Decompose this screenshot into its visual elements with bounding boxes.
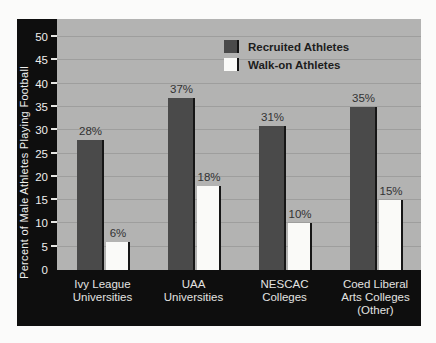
bar-value-label: 31% <box>250 111 296 123</box>
bar-walk-on-athletes <box>106 242 130 270</box>
x-category-label: Coed LiberalArts Colleges(Other) <box>330 278 421 317</box>
x-category-label: NESCACColleges <box>239 278 330 304</box>
bar-walk-on-athletes <box>288 223 312 270</box>
legend-swatch <box>224 40 239 53</box>
y-tick-label: 25 <box>35 148 48 160</box>
bar-value-label: 18% <box>186 171 232 183</box>
bar-value-label: 15% <box>368 185 414 197</box>
gridline <box>57 83 421 84</box>
scanned-bar-chart-page: Percent of Male Athletes Playing Footbal… <box>0 0 436 343</box>
legend: Recruited AthletesWalk-on Athletes <box>224 40 349 76</box>
y-tick-label: 40 <box>35 78 48 90</box>
bar-value-label: 35% <box>341 92 387 104</box>
y-tick-label: 5 <box>42 241 48 253</box>
gridline <box>57 36 421 37</box>
bar-value-label: 10% <box>277 208 323 220</box>
legend-item: Recruited Athletes <box>224 40 349 53</box>
legend-label: Walk-on Athletes <box>248 59 340 71</box>
y-tick-label: 45 <box>35 54 48 66</box>
x-axis-band: · Ivy LeagueUniversitiesUAAUniversitiesN… <box>57 270 421 326</box>
bar-value-label: 37% <box>159 83 205 95</box>
legend-item: Walk-on Athletes <box>224 58 349 71</box>
bar-recruited-athletes <box>168 98 195 270</box>
x-category-label: Ivy LeagueUniversities <box>57 278 148 304</box>
legend-swatch <box>224 58 239 71</box>
y-axis-title: Percent of Male Athletes Playing Footbal… <box>17 19 32 326</box>
y-axis-band: Percent of Male Athletes Playing Footbal… <box>17 19 57 326</box>
bar-value-label: 28% <box>68 125 114 137</box>
legend-label: Recruited Athletes <box>248 41 349 53</box>
bar-chart-figure: Percent of Male Athletes Playing Footbal… <box>17 19 421 326</box>
y-tick-label: 35 <box>35 101 48 113</box>
bar-walk-on-athletes <box>379 200 403 270</box>
y-tick-label: 20 <box>35 171 48 183</box>
bar-value-label: 6% <box>95 227 141 239</box>
bar-recruited-athletes <box>77 140 104 270</box>
y-tick-label: 10 <box>35 217 48 229</box>
y-tick-label: 0 <box>42 264 48 276</box>
y-tick-label: 30 <box>35 124 48 136</box>
plot-area: 28%6%37%18%31%10%35%15% Recruited Athlet… <box>57 19 421 270</box>
bar-recruited-athletes <box>259 126 286 270</box>
y-tick-label: 50 <box>35 31 48 43</box>
x-category-label: UAAUniversities <box>148 278 239 304</box>
bar-walk-on-athletes <box>197 186 221 270</box>
y-tick-label: 15 <box>35 194 48 206</box>
